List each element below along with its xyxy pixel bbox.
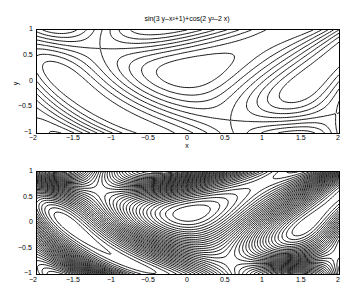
y-tick: 1 [29, 167, 33, 174]
x-tick: 2 [336, 276, 340, 283]
x-tick: −2 [29, 276, 37, 283]
top-contour-plot [36, 29, 340, 134]
y-tick: −1 [24, 269, 32, 276]
y-tick: 0 [29, 77, 33, 84]
x-tick: −0.5 [141, 276, 155, 283]
x-tick: −2 [29, 134, 37, 141]
x-tick: 2 [336, 134, 340, 141]
x-tick: 1.5 [296, 276, 306, 283]
y-tick: −1 [24, 128, 32, 135]
x-tick: 1 [260, 276, 264, 283]
chart-title: sin(3 y–x²+1)+cos(2 y²–2 x) [144, 15, 229, 22]
x-tick: −1.5 [66, 276, 80, 283]
y-tick: 0 [29, 218, 33, 225]
x-tick: −1 [107, 276, 115, 283]
x-tick: 0.5 [220, 134, 230, 141]
bottom-contour-lines [37, 172, 339, 274]
x-tick: −0.5 [141, 134, 155, 141]
y-tick: −0.5 [18, 244, 32, 251]
y-tick: −0.5 [18, 102, 32, 109]
x-tick: 0 [185, 134, 189, 141]
bottom-contour-plot [36, 171, 340, 275]
x-tick: 0 [185, 276, 189, 283]
x-tick: 1 [260, 134, 264, 141]
x-tick: −1 [107, 134, 115, 141]
x-tick: 1.5 [296, 134, 306, 141]
x-tick: 0.5 [220, 276, 230, 283]
y-tick: 1 [29, 25, 33, 32]
y-tick: 0.5 [23, 193, 33, 200]
y-tick: 0.5 [23, 51, 33, 58]
y-axis-label: y [12, 82, 19, 86]
x-tick: −1.5 [66, 134, 80, 141]
top-contour-lines [37, 30, 339, 133]
x-axis-label: x [185, 142, 189, 149]
